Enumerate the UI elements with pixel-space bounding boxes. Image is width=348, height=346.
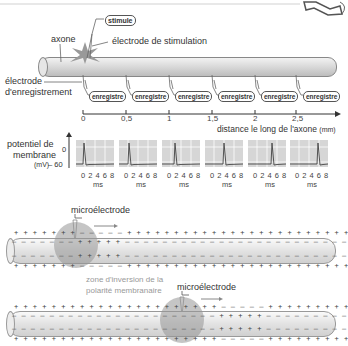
header-line: [0, 3, 300, 5]
x-ticks-3: 0 2 4 6 8: [167, 171, 201, 180]
trace-1: [76, 140, 114, 167]
outer-charges-bottom-1: + + + + + + + – – – – – + + + + + + + + …: [14, 262, 348, 270]
inner-charges-top-1: – – – – – – – + + + + + – – – – – – – – …: [12, 238, 348, 246]
recorder-tag-4: enregistre: [218, 91, 255, 102]
trace-2: [119, 140, 157, 167]
y-axis-arrow: [66, 132, 72, 168]
trace-4: [205, 140, 243, 167]
stimulus-tag: stimule: [105, 15, 136, 26]
oscillogram-4: [205, 140, 243, 167]
x-ticks-6: 0 2 4 6 8: [295, 171, 329, 180]
axon-label: axone: [51, 34, 76, 44]
x-ticks-2: 0 2 4 6 8: [124, 171, 158, 180]
oscillogram-2: [119, 140, 157, 167]
outer-charges-top-2: + + + + + + + + + + + + + + + + + + + + …: [14, 303, 348, 311]
y-label-1: potentiel de: [7, 139, 54, 149]
x-unit-6: ms: [307, 180, 317, 189]
x-unit-4: ms: [222, 180, 232, 189]
x-ticks-4: 0 2 4 6 8: [210, 171, 244, 180]
oscillogram-6: [290, 140, 328, 167]
stim-electrode-label: électrode de stimulation: [112, 36, 207, 46]
trace-5: [248, 140, 286, 167]
x-unit-3: ms: [179, 180, 189, 189]
recorder-tag-6: enregistre: [303, 91, 340, 102]
zone-label-1: zone d'inversion de la: [86, 275, 163, 284]
axon-end-cap: [38, 57, 48, 77]
oscillogram-3: [162, 140, 200, 167]
y-unit: (mV): [34, 161, 49, 168]
inner-charges-top-2: – – – – – – – – – – – – – – – – – – – – …: [12, 312, 348, 320]
trace-3: [162, 140, 200, 167]
recorder-tag-3: enregistre: [175, 91, 212, 102]
outer-charges-top-1: + + + + + + + – – – – – + + + + + + + + …: [14, 229, 348, 237]
recorder-tag-2: enregistre: [132, 91, 169, 102]
x-ticks-5: 0 2 4 6 8: [253, 171, 287, 180]
oscillogram-1: [76, 140, 114, 167]
axon-pointer-line: [58, 44, 64, 64]
x-unit-5: ms: [265, 180, 275, 189]
y-tick-60: – 60: [48, 160, 63, 169]
oscillogram-row: potentiel de membrane (mV) 0 – 60 0 2 4 …: [0, 110, 348, 200]
y-label-2: membrane: [13, 150, 56, 160]
x-ticks-1: 0 2 4 6 8: [81, 171, 115, 180]
stim-label-line: [92, 38, 110, 48]
outer-charges-bottom-2: + + + + + + + + + + + + + + + + + + + + …: [14, 335, 348, 343]
inner-charges-bottom-1: – – – – – – – + + + + + – – – – – – – – …: [12, 252, 348, 260]
recorder-tag-1: enregistre: [89, 91, 126, 102]
zone-label-2: polarité membranaire: [86, 286, 162, 295]
x-unit-1: ms: [93, 180, 103, 189]
oscillogram-5: [248, 140, 286, 167]
x-unit-2: ms: [136, 180, 146, 189]
inner-charges-bottom-2: – – – – – – – – – – – – – – – – – – – – …: [12, 325, 348, 333]
recorder-tag-5: enregistre: [261, 91, 298, 102]
trace-6: [290, 140, 328, 167]
film-reel-icon: [300, 0, 348, 16]
